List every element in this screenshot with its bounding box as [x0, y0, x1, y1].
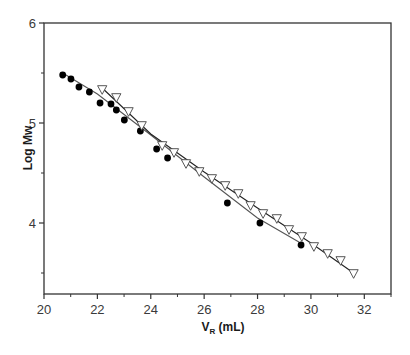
data-point-circle — [224, 200, 231, 207]
y-axis-title: Log Mw — [21, 125, 35, 170]
plot-border — [44, 23, 391, 294]
data-point-circle — [86, 89, 93, 96]
data-point-circle — [113, 107, 120, 114]
data-point-circle — [59, 72, 66, 79]
data-point-triangle — [181, 160, 190, 169]
data-point-triangle — [349, 270, 358, 279]
x-tick-label: 20 — [37, 302, 51, 317]
x-tick-label: 28 — [250, 302, 264, 317]
x-tick-label: 32 — [357, 302, 371, 317]
x-axis-ticks: 20222426283032 — [37, 294, 391, 317]
data-point-triangle — [297, 233, 306, 242]
data-point-circle — [108, 101, 115, 108]
chart-canvas: 20222426283032 456 VR (mL) Log Mw — [0, 0, 410, 355]
y-tick-label: 6 — [29, 16, 36, 31]
data-series — [59, 72, 358, 279]
x-tick-label: 22 — [90, 302, 104, 317]
data-point-triangle — [284, 226, 293, 235]
data-point-circle — [164, 155, 171, 162]
data-point-circle — [298, 242, 305, 249]
data-point-triangle — [98, 86, 107, 95]
data-point-circle — [257, 220, 264, 227]
data-point-circle — [97, 100, 104, 107]
y-tick-label: 4 — [29, 216, 36, 231]
data-point-circle — [121, 117, 128, 124]
data-point-circle — [76, 84, 83, 91]
data-point-circle — [68, 76, 75, 83]
x-tick-label: 26 — [197, 302, 211, 317]
data-point-circle — [153, 146, 160, 153]
x-tick-label: 30 — [304, 302, 318, 317]
x-axis-title: VR (mL) — [201, 320, 244, 336]
plot-frame — [44, 23, 391, 294]
x-tick-label: 24 — [144, 302, 158, 317]
